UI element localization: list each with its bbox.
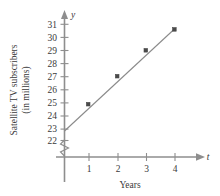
x-axis-arrow-icon — [196, 153, 205, 161]
x-axis-caption: Years — [119, 180, 141, 190]
y-axis-tick-labels: 31 30 29 28 27 26 25 24 23 22 — [48, 20, 58, 146]
y-tick-label-26: 26 — [48, 85, 58, 95]
satellite-tv-subscribers-chart: 31 30 29 28 27 26 25 24 23 22 y 1 2 3 4 — [0, 0, 220, 196]
y-tick-label-31: 31 — [48, 20, 58, 30]
data-point-2 — [115, 74, 119, 78]
data-point-4 — [173, 28, 177, 32]
y-tick-label-22: 22 — [48, 136, 58, 146]
y-tick-label-24: 24 — [48, 111, 58, 121]
trend-line — [65, 29, 176, 132]
chart-canvas: 31 30 29 28 27 26 25 24 23 22 y 1 2 3 4 — [0, 0, 220, 196]
y-tick-label-25: 25 — [48, 98, 58, 108]
x-tick-label-3: 3 — [144, 164, 149, 174]
x-axis-tick-labels: 1 2 3 4 — [87, 164, 178, 174]
y-axis-caption-line2: (in millions) — [21, 66, 32, 113]
y-tick-label-29: 29 — [48, 46, 58, 56]
y-tick-label-30: 30 — [48, 33, 58, 43]
data-point-3 — [144, 49, 148, 53]
x-tick-label-1: 1 — [87, 164, 92, 174]
x-axis-variable-label: t — [207, 152, 210, 162]
y-axis-variable-label: y — [70, 10, 76, 20]
x-tick-label-4: 4 — [173, 164, 178, 174]
y-tick-label-23: 23 — [48, 124, 58, 134]
y-tick-label-27: 27 — [48, 72, 58, 82]
data-point-1 — [86, 102, 90, 106]
y-tick-label-28: 28 — [48, 59, 58, 69]
x-tick-label-2: 2 — [116, 164, 121, 174]
y-axis-caption-line1: Satellite TV subscribers — [9, 44, 19, 135]
y-axis-arrow-icon — [61, 10, 68, 19]
